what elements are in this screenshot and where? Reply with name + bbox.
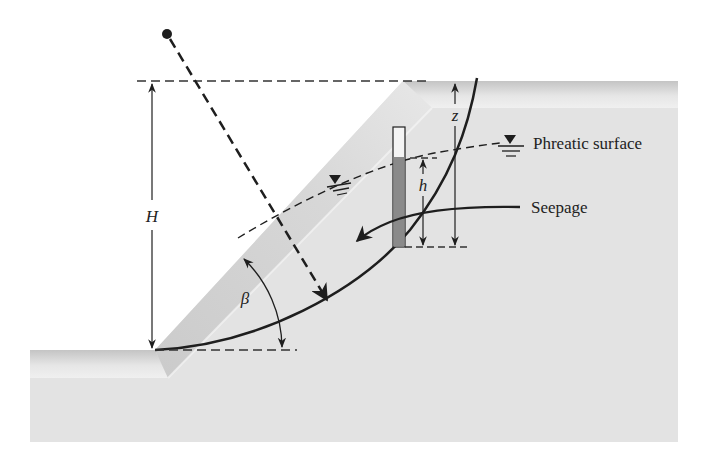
circle-center-point (162, 29, 172, 39)
h-label: h (419, 176, 428, 195)
phreatic-surface-label: Phreatic surface (533, 134, 642, 153)
height-dimension-H: H (145, 84, 160, 348)
z-label: z (451, 106, 459, 125)
slope-diagram: H β h (0, 0, 710, 458)
beta-label: β (240, 289, 250, 308)
seepage-label: Seepage (531, 198, 588, 217)
piezometer-tube (393, 127, 405, 247)
H-label: H (145, 207, 160, 226)
